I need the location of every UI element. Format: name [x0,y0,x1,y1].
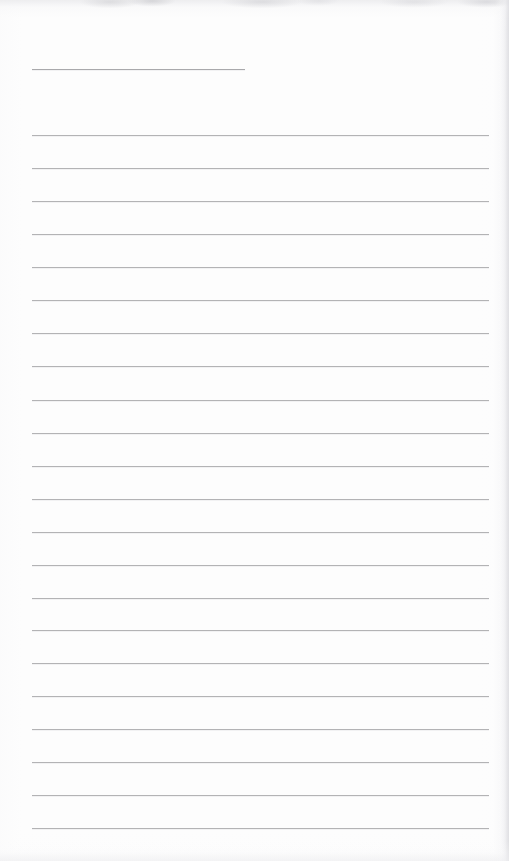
body-rule-line-14 [32,565,489,566]
body-rule-line-1 [32,135,489,136]
body-rule-line-19 [32,729,489,730]
body-rule-line-17 [32,663,489,664]
body-rule-line-2 [32,168,489,169]
body-rule-line-11 [32,466,489,467]
body-rule-line-22 [32,828,489,829]
body-rule-line-15 [32,598,489,599]
body-rule-line-8 [32,366,489,367]
body-rule-line-7 [32,333,489,334]
body-rule-line-4 [32,234,489,235]
body-rule-line-18 [32,696,489,697]
body-rule-line-13 [32,532,489,533]
title-blank-line [32,69,245,70]
body-rule-line-9 [32,400,489,401]
body-rule-line-3 [32,201,489,202]
ruled-lines-group [0,0,509,861]
body-rule-line-16 [32,630,489,631]
body-rule-line-20 [32,762,489,763]
body-rule-line-12 [32,499,489,500]
body-rule-line-21 [32,795,489,796]
lined-page [0,0,509,861]
body-rule-line-5 [32,267,489,268]
body-rule-line-10 [32,433,489,434]
body-rule-line-6 [32,300,489,301]
